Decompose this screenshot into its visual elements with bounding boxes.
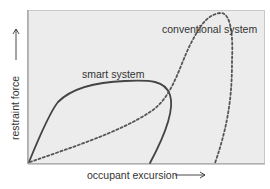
conventional-system-label: conventional system [162,23,257,35]
smart-system-label: smart system [82,68,145,80]
x-axis-arrow-icon [175,172,205,178]
x-axis-label: occupant excursion [87,169,178,181]
y-axis-arrow-icon [13,29,19,60]
y-axis-label: restraint force [9,76,21,140]
diagram: smart system conventional system occupan… [0,0,270,189]
